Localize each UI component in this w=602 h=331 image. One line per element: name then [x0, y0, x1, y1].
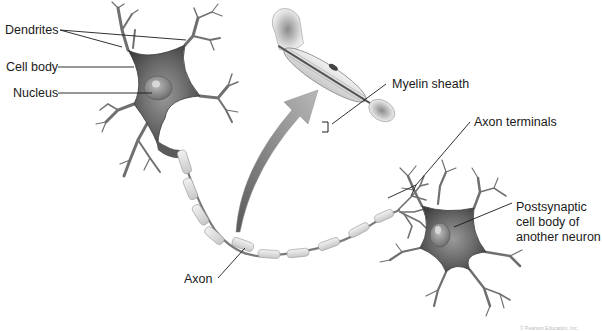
myelin-bracket — [322, 122, 328, 132]
postsynaptic-neuron — [380, 160, 522, 316]
presynaptic-neuron — [96, 2, 238, 176]
leader-axon-terminals-a — [416, 122, 470, 185]
label-axon: Axon — [184, 272, 213, 287]
nucleus-1 — [144, 76, 172, 100]
nucleus-2 — [430, 223, 450, 247]
axon — [176, 149, 430, 259]
magnify-arrow — [236, 90, 318, 232]
label-postsynaptic-2: cell body of — [516, 215, 579, 230]
label-nucleus: Nucleus — [13, 86, 58, 101]
credit-text: © Pearson Education, Inc. — [520, 325, 578, 331]
myelin-enlargement — [251, 0, 417, 127]
label-postsynaptic-3: another neuron — [516, 230, 601, 245]
label-postsynaptic-1: Postsynaptic — [516, 200, 587, 215]
leader-axon — [218, 248, 245, 278]
myelin-segments — [176, 149, 394, 259]
cell-body-2 — [420, 206, 486, 272]
nucleolus-2 — [435, 226, 441, 234]
label-dendrites: Dendrites — [5, 23, 59, 38]
label-cell-body: Cell body — [6, 60, 58, 75]
node-end-left — [272, 8, 303, 50]
node-end-right — [365, 95, 399, 127]
label-axon-terminals: Axon terminals — [474, 115, 557, 130]
nucleolus-1 — [152, 81, 160, 88]
label-myelin-sheath: Myelin sheath — [392, 77, 469, 92]
